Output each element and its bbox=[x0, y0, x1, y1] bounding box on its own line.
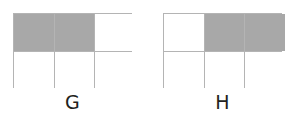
fraction-model-h: H bbox=[163, 0, 283, 119]
grid-g bbox=[13, 13, 132, 88]
grid-h-cell-r2c3 bbox=[245, 52, 285, 90]
grid-h-cell-r2c1 bbox=[164, 52, 204, 90]
fraction-models-figure: G H bbox=[0, 0, 289, 119]
grid-g-cell-r1c3 bbox=[95, 14, 135, 51]
grid-g-cell-r2c1 bbox=[14, 52, 54, 90]
grid-h-cell-r1c2 bbox=[205, 14, 244, 51]
grid-g-cell-r2c2 bbox=[55, 52, 94, 90]
grid-h-label: H bbox=[163, 90, 282, 114]
grid-g-cell-r2c3 bbox=[95, 52, 135, 90]
grid-g-label: G bbox=[13, 90, 132, 114]
grid-g-cell-r1c2 bbox=[55, 14, 94, 51]
grid-g-cell-r1c1 bbox=[14, 14, 54, 51]
grid-h-cell-r1c3 bbox=[245, 14, 285, 51]
fraction-model-g: G bbox=[13, 0, 133, 119]
grid-h-cell-r1c1 bbox=[164, 14, 204, 51]
grid-h-cell-r2c2 bbox=[205, 52, 244, 90]
grid-h bbox=[163, 13, 282, 88]
